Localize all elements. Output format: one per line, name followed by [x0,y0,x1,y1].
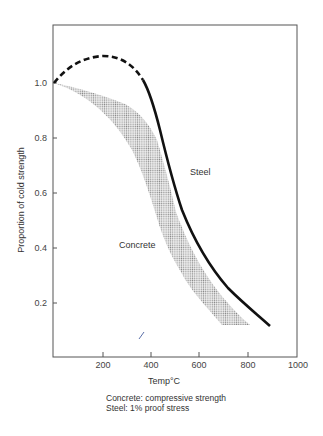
concrete-label: Concrete [119,240,156,250]
y-axis-title: Proportion of cold strength [16,147,26,253]
x-tick-label: 1000 [288,360,308,370]
concrete-band [54,83,250,325]
caption-line-concrete: Concrete: compressive strength [106,393,226,403]
caption-line-steel: Steel: 1% proof stress [106,403,226,413]
steel-label: Steel [190,167,211,177]
chart-canvas: 1.0 0.8 0.6 0.4 0.2 200 400 600 800 1000… [0,0,323,436]
x-tick-label: 600 [191,360,206,370]
y-tick-label: 1.0 [34,78,47,88]
x-tick-label: 200 [95,360,110,370]
x-axis-title: Temp°C [148,376,181,386]
y-tick-label: 0.8 [34,133,47,143]
x-axis-ticks [103,352,248,357]
pen-mark [139,332,144,339]
y-axis-ticks [53,83,57,303]
y-tick-label: 0.6 [34,188,47,198]
figure-caption: Concrete: compressive strength Steel: 1%… [106,393,226,413]
x-tick-label: 400 [143,360,158,370]
x-tick-label: 800 [240,360,255,370]
y-tick-label: 0.2 [34,298,47,308]
y-tick-label: 0.4 [34,243,47,253]
steel-line-dashed [54,56,143,83]
